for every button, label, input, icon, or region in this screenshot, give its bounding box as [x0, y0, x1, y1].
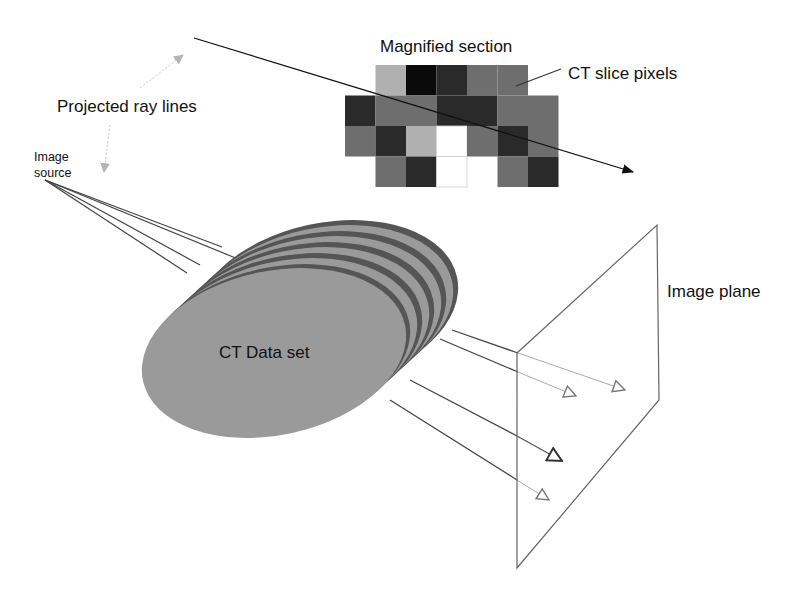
ct-pixel	[406, 65, 437, 96]
source-ray-lines	[45, 180, 238, 273]
ct-pixel	[345, 96, 376, 127]
exit-ray-segment	[390, 400, 517, 480]
ct-pixel	[528, 157, 559, 188]
ct-pixel	[437, 96, 468, 127]
image-plane-label: Image plane	[667, 282, 761, 301]
ct-data-set-stack	[126, 197, 474, 461]
ct-pixel	[498, 96, 529, 127]
ct-pixel	[437, 157, 468, 188]
source-ray	[45, 180, 222, 247]
magnified-section-label: Magnified section	[380, 37, 512, 56]
ct-pixel	[467, 65, 498, 96]
projected-ray-arrow	[518, 372, 576, 396]
exit-ray-lines	[390, 330, 625, 500]
ct-pixel	[498, 126, 529, 157]
exit-ray-segment	[452, 330, 518, 353]
source-ray	[45, 180, 238, 259]
ct-pixel	[498, 65, 529, 96]
ct-pixel	[437, 126, 468, 157]
ct-slice-pixel-grid	[345, 65, 559, 187]
ct-projection-diagram: Magnified section CT slice pixels Projec…	[0, 0, 809, 600]
ct-data-set-label: CT Data set	[219, 343, 310, 362]
ct-pixel	[437, 65, 468, 96]
projected-ray-arrow	[517, 480, 549, 500]
ct-pixel	[376, 96, 407, 127]
ct-pixel	[467, 126, 498, 157]
ct-pixel	[406, 157, 437, 188]
ct-pixel	[376, 126, 407, 157]
ct-pixel	[376, 65, 407, 96]
projected-ray-lines-label: Projected ray lines	[57, 97, 197, 116]
image-plane	[517, 225, 659, 568]
projected-ray-indicator-down	[104, 125, 110, 172]
ct-slice-pixels-label: CT slice pixels	[568, 64, 677, 83]
ct-pixel	[528, 96, 559, 127]
ct-pixel	[376, 157, 407, 188]
exit-ray-segment	[410, 380, 517, 436]
projected-ray-indicator-up	[140, 55, 183, 88]
exit-ray-segment	[440, 339, 518, 372]
source-ray	[45, 180, 187, 273]
source-ray	[45, 180, 200, 265]
image-source-label-line1: Image	[34, 150, 69, 164]
ct-pixel	[498, 157, 529, 188]
projected-ray-arrow	[518, 353, 625, 390]
image-source-label-line2: source	[34, 166, 72, 180]
ct-pixel	[467, 96, 498, 127]
ct-pixel	[345, 126, 376, 157]
projected-ray-arrow	[517, 436, 562, 461]
ct-pixel	[406, 126, 437, 157]
